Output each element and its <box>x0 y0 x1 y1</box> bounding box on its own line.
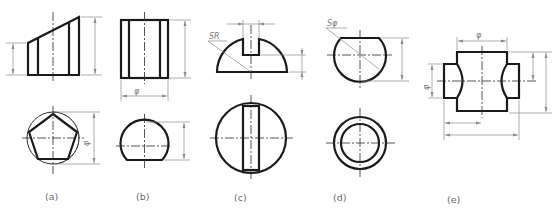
arrow-head <box>401 39 404 44</box>
panel-e-front-view: φ φ <box>422 31 552 140</box>
panel-e: φ φ (e) <box>422 31 552 205</box>
arrow-head <box>476 122 481 125</box>
sphere-diameter-label: Sφ <box>327 19 338 28</box>
caption-a: (a) <box>45 191 58 202</box>
arrow-head <box>162 95 167 98</box>
arrow-head <box>93 113 96 118</box>
cross-body-outline <box>444 52 519 111</box>
caption-c: (c) <box>234 192 247 203</box>
diameter-label: φ <box>82 140 91 146</box>
arrow-head <box>301 50 304 55</box>
arrow-head <box>184 21 187 26</box>
arrow-head <box>532 53 535 58</box>
arrow-head <box>122 95 127 98</box>
panel-c: SR (c) <box>208 20 306 203</box>
panel-d-front-view: Sφ <box>326 19 409 88</box>
arrow-head <box>401 75 404 80</box>
arrow-head <box>458 40 463 43</box>
panel-a: φ (a) <box>6 12 102 202</box>
arrow-head <box>501 40 506 43</box>
arrow-head <box>12 69 15 74</box>
panel-c-front-view: SR <box>208 20 306 80</box>
hemisphere-slot-outline <box>217 39 287 72</box>
arrow-head <box>238 23 243 26</box>
panel-d-top-view <box>326 108 395 178</box>
panel-a-top-view: φ <box>22 106 100 174</box>
caption-e: (e) <box>447 194 460 205</box>
arrow-head <box>301 72 304 77</box>
technical-drawing-canvas: φ (a) φ <box>0 0 558 211</box>
arrow-head <box>184 72 187 77</box>
caption-d: (d) <box>333 192 346 203</box>
vertical-bore-diameter-label: φ <box>476 31 482 40</box>
arrow-head <box>532 75 535 80</box>
arrow-head <box>445 134 450 137</box>
arrow-head <box>431 92 434 97</box>
arrow-head <box>545 53 548 58</box>
arrow-head <box>183 154 186 159</box>
prism-outline <box>28 17 79 75</box>
panel-b-front-view: φ <box>121 12 191 101</box>
panel-c-top-view <box>210 95 293 181</box>
arrow-head <box>12 44 15 49</box>
panel-d: Sφ (d) <box>326 19 409 203</box>
arrow-head <box>545 107 548 112</box>
panel-b-top-view <box>116 114 190 170</box>
arrow-head <box>513 134 518 137</box>
panel-b: φ (b) <box>116 12 191 202</box>
horizontal-bore-diameter-label: φ <box>422 84 431 90</box>
arrow-head <box>183 123 186 128</box>
arrow-head <box>93 158 96 163</box>
arrow-head <box>259 23 264 26</box>
panel-a-front-view <box>6 12 102 82</box>
arrow-head <box>94 69 97 74</box>
diameter-label: φ <box>134 87 140 96</box>
arrow-head <box>431 65 434 70</box>
arrow-head <box>445 122 450 125</box>
sphere-radius-label: SR <box>209 32 220 41</box>
arrow-head <box>94 18 97 23</box>
caption-b: (b) <box>136 191 149 202</box>
